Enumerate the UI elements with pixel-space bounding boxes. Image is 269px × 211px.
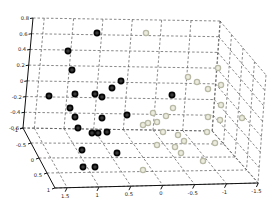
- data-point-class-light: [218, 102, 223, 107]
- y-gridline-right: [224, 35, 232, 145]
- x-gridline-back: [64, 19, 74, 129]
- y-gridline-bottom: [23, 128, 212, 131]
- x-tick-label: 0: [159, 190, 162, 196]
- z-gridline-right: [218, 52, 264, 105]
- data-point-class-dark: [104, 129, 109, 134]
- data-point-class-light: [145, 120, 150, 125]
- data-point-class-dark: [109, 85, 114, 90]
- data-point-class-light: [172, 144, 177, 149]
- z-tick-label: 0: [20, 78, 23, 84]
- data-point-class-light: [212, 140, 217, 145]
- x-tick-mark: [129, 186, 131, 190]
- y-gridline-bottom: [31, 143, 224, 144]
- z-tick-label: -0.4: [10, 109, 21, 115]
- data-point-class-dark: [94, 30, 99, 35]
- data-point-class-dark: [92, 91, 97, 96]
- data-point-class-dark: [124, 112, 129, 117]
- data-point-class-light: [200, 158, 205, 163]
- data-point-class-light: [140, 167, 145, 172]
- data-point-class-dark: [67, 105, 72, 110]
- x-tick-mark: [256, 183, 258, 187]
- data-point-class-light: [181, 138, 186, 143]
- x-tick-label: -1.5: [251, 188, 261, 194]
- data-point-class-light: [154, 142, 159, 147]
- z-gridline-back: [33, 18, 220, 21]
- y-tick-label: -0.5: [16, 142, 26, 148]
- y-gridline-right: [235, 48, 243, 157]
- data-point-class-dark: [72, 91, 77, 96]
- x-tick-label: 0.5: [125, 191, 133, 197]
- y-gridline-right: [258, 75, 266, 183]
- plot-canvas: 0.80.60.40.20-0.2-0.4-0.61.510.50-0.5-1-…: [0, 0, 269, 211]
- x-tick-mark: [225, 184, 227, 188]
- data-point-class-dark: [92, 164, 97, 169]
- y-tick-label: 1: [47, 187, 50, 193]
- y-tick-label: -1: [13, 127, 18, 133]
- x-tick-label: -0.5: [188, 190, 198, 196]
- x-tick-label: 1: [95, 192, 98, 198]
- data-point-class-dark: [114, 150, 119, 155]
- data-point-class-light: [204, 129, 209, 134]
- data-point-class-dark: [72, 114, 77, 119]
- z-gridline-back: [30, 49, 218, 52]
- scatter3d-figure: 0.80.60.40.20-0.2-0.4-0.61.510.50-0.5-1-…: [0, 0, 269, 211]
- data-point-class-dark: [99, 94, 104, 99]
- data-point-class-light: [163, 113, 168, 118]
- data-point-class-dark: [80, 164, 85, 169]
- z-gridline-back: [29, 65, 217, 68]
- z-tick-label: 0.8: [21, 15, 29, 21]
- x-gridline-back: [34, 18, 44, 128]
- data-point-class-light: [160, 129, 165, 134]
- data-point-class-dark: [169, 92, 174, 97]
- data-point-class-light: [178, 150, 183, 155]
- x-axis-line: [55, 183, 258, 188]
- data-point-class-dark: [99, 115, 104, 120]
- y-tick-label: 0.5: [34, 172, 42, 178]
- data-point-class-light: [218, 82, 223, 87]
- data-point-class-light: [143, 30, 148, 35]
- z-gridline-right: [215, 84, 261, 137]
- z-tick-label: 0.2: [16, 62, 24, 68]
- data-point-class-dark: [75, 125, 80, 130]
- data-point-class-light: [217, 117, 222, 122]
- x-tick-mark: [193, 185, 195, 189]
- y-gridline-bottom: [47, 170, 247, 173]
- data-point-class-light: [205, 114, 210, 119]
- data-point-class-light: [194, 79, 199, 84]
- z-tick-label: -0.2: [12, 94, 22, 100]
- y-gridline-right: [212, 21, 220, 131]
- data-point-class-light: [185, 74, 190, 79]
- z-tick-label: 0.6: [19, 31, 27, 37]
- z-gridline-back: [24, 112, 213, 115]
- data-point-class-dark: [46, 93, 51, 98]
- y-gridline-right: [247, 62, 255, 171]
- z-tick-label: 0.4: [18, 46, 27, 52]
- data-point-class-light: [205, 86, 210, 91]
- data-point-class-dark: [65, 48, 70, 53]
- x-tick-mark: [97, 187, 99, 191]
- x-tick-label: 1.5: [61, 193, 69, 199]
- data-point-class-dark: [95, 130, 100, 135]
- data-point-class-light: [239, 115, 244, 120]
- data-point-class-light: [175, 132, 180, 137]
- z-gridline-back: [32, 34, 219, 37]
- data-point-class-dark: [89, 130, 94, 135]
- data-point-class-light: [150, 110, 155, 115]
- data-point-class-dark: [69, 67, 74, 72]
- data-point-class-dark: [118, 78, 123, 83]
- x-tick-mark: [161, 185, 163, 189]
- data-point-class-light: [154, 119, 159, 124]
- y-tick-label: 0: [31, 157, 34, 163]
- data-point-class-light: [215, 65, 220, 70]
- data-point-class-dark: [79, 147, 84, 152]
- x-tick-label: -1: [222, 189, 227, 195]
- data-point-class-light: [170, 105, 175, 110]
- z-gridline-back: [26, 97, 214, 100]
- y-gridline-bottom: [39, 157, 235, 158]
- x-tick-mark: [65, 188, 67, 192]
